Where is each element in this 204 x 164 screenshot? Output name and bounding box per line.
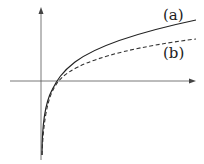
- x-axis-arrow-icon: [189, 79, 196, 84]
- y-axis-arrow-icon: [39, 7, 44, 14]
- curve-a: [42, 20, 196, 155]
- log-curves-diagram: (a) (b): [0, 0, 204, 164]
- label-b: (b): [163, 44, 184, 62]
- label-a: (a): [163, 6, 184, 24]
